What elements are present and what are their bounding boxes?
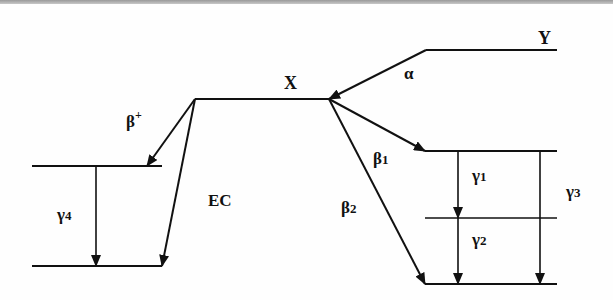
label-gamma2: γ2 bbox=[471, 230, 486, 249]
label-gamma3: γ3 bbox=[565, 182, 581, 201]
label-ec: EC bbox=[208, 191, 232, 210]
label-gamma1: γ1 bbox=[471, 166, 486, 185]
decay-scheme-svg: Y X α β+ EC β1 β2 γ1 γ2 γ3 γ4 bbox=[0, 0, 613, 300]
label-gamma4: γ4 bbox=[56, 205, 72, 224]
diagram-canvas: Y X α β+ EC β1 β2 γ1 γ2 γ3 γ4 bbox=[0, 0, 613, 300]
label-beta-plus: β+ bbox=[126, 108, 142, 131]
label-alpha: α bbox=[404, 64, 414, 83]
label-beta2: β2 bbox=[341, 198, 356, 217]
label-beta1: β1 bbox=[373, 149, 388, 168]
label-y: Y bbox=[538, 28, 551, 48]
ec-arrow bbox=[162, 99, 195, 266]
label-x: X bbox=[284, 73, 297, 93]
beta2-arrow bbox=[329, 99, 425, 284]
